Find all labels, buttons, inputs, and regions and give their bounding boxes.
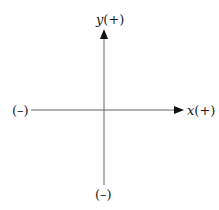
y-negative-label: (–) [95,187,112,202]
y-axis-arrow-icon [100,29,108,39]
axes-diagram: y(+) x(+) (–) (–) [0,0,219,210]
x-positive-label: x(+) [187,103,215,118]
x-negative-label: (–) [12,103,29,118]
y-positive-label: y(+) [95,12,124,27]
x-axis-arrow-icon [174,106,184,114]
